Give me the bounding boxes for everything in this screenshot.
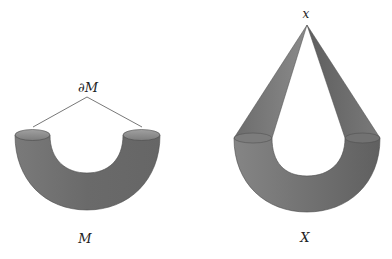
boundary-label: ∂M <box>78 80 99 95</box>
seam-circle-right <box>345 133 380 143</box>
figure-x: x X <box>234 7 380 245</box>
boundary-circle-left <box>15 130 50 141</box>
bent-tube-body <box>234 138 380 212</box>
seam-circle-left <box>234 133 272 143</box>
apex-label: x <box>303 7 310 21</box>
half-torus-body <box>15 135 160 210</box>
boundary-pointer-right <box>87 97 142 127</box>
boundary-pointer-left <box>33 97 87 127</box>
cone-right <box>307 25 380 141</box>
figure-m-label: M <box>77 231 92 246</box>
figure-x-label: X <box>299 230 310 245</box>
boundary-circle-right <box>123 130 160 141</box>
figure-m: ∂M M <box>15 80 160 246</box>
cone-left <box>234 25 307 141</box>
diagram-canvas: ∂M M x X <box>0 0 392 259</box>
